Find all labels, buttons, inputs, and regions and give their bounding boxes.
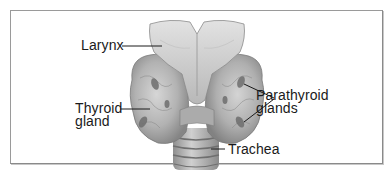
label-larynx: Larynx — [81, 39, 124, 52]
parathyroid-text-line2: glands — [256, 102, 329, 115]
label-thyroid-gland: Thyroid gland — [75, 102, 122, 128]
label-trachea: Trachea — [228, 143, 280, 156]
thyroid-text-line2: gland — [75, 115, 122, 128]
trachea-text: Trachea — [228, 143, 280, 156]
label-parathyroid-glands: Parathyroid glands — [256, 89, 329, 115]
larynx-text: Larynx — [81, 39, 124, 52]
thyroid-isthmus — [180, 106, 214, 126]
thyroid-illustration — [0, 0, 390, 187]
